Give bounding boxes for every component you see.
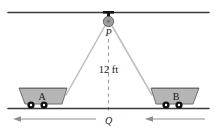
cable-right (111, 24, 152, 95)
cart-b-label: B (173, 91, 180, 102)
diagram-canvas: P 12 ft Q A B (0, 0, 217, 130)
cart-a-wheel-right-hub (43, 104, 45, 106)
cart-b-wheel-left-hub (165, 104, 167, 106)
cart-a-wheel-left-hub (30, 104, 32, 106)
pulley-hub-icon (107, 20, 110, 23)
cart-b-group: B (151, 88, 199, 109)
pulley-cart-diagram: P 12 ft Q A B (0, 0, 217, 130)
motion-arrow-left-group (13, 116, 96, 122)
pulley-point-label: P (104, 27, 111, 38)
motion-arrow-left-head (13, 116, 21, 122)
cable-left (66, 24, 106, 95)
motion-arrow-right-head (145, 116, 153, 122)
cart-a-label: A (38, 91, 46, 102)
motion-arrow-right-group (145, 116, 205, 122)
ground-point-label: Q (105, 115, 113, 126)
pulley-assembly (103, 11, 114, 27)
cart-b-wheel-right-hub (178, 104, 180, 106)
cart-a-group: A (19, 88, 67, 109)
height-label: 12 ft (99, 64, 119, 75)
